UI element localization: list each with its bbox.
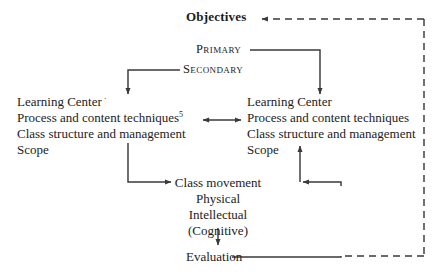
left-block-line-3: Class structure and management — [17, 126, 186, 142]
class-movement-line-3: Intellectual — [143, 207, 293, 223]
class-movement-inbound-from-loop — [303, 182, 341, 186]
class-movement-line-1: Class movement — [143, 175, 293, 191]
node-right-learning-center: Learning Center Process and content tech… — [247, 94, 416, 158]
node-secondary: Secondary — [183, 63, 243, 76]
class-movement-line-2: Physical — [143, 191, 293, 207]
flow-diagram: Objectives Primary Secondary Learning Ce… — [0, 0, 444, 275]
right-block-line-4: Scope — [247, 142, 416, 158]
node-evaluation: Evaluation — [186, 250, 242, 263]
node-objectives: Objectives — [186, 10, 246, 23]
node-primary: Primary — [196, 43, 241, 56]
primary-to-right-block-connector — [250, 50, 320, 94]
node-class-movement: Class movement Physical Intellectual (Co… — [143, 175, 293, 239]
left-block-footnote-marker: 5 — [179, 110, 183, 119]
right-block-line-3: Class structure and management — [247, 126, 416, 142]
left-block-line-1: Learning Center· — [17, 94, 186, 110]
left-block-line-2: Process and content techniques5 — [17, 110, 186, 126]
right-block-line-2: Process and content techniques — [247, 110, 416, 126]
left-block-line-4: Scope — [17, 142, 186, 158]
left-block-line-1-tick: · — [102, 93, 107, 103]
evaluation-to-feedback-line — [232, 256, 341, 257]
class-movement-line-4: (Cognitive) — [143, 223, 293, 239]
right-block-line-1: Learning Center — [247, 94, 416, 110]
node-left-learning-center: Learning Center· Process and content tec… — [17, 94, 186, 158]
secondary-to-left-block-connector — [128, 70, 180, 94]
